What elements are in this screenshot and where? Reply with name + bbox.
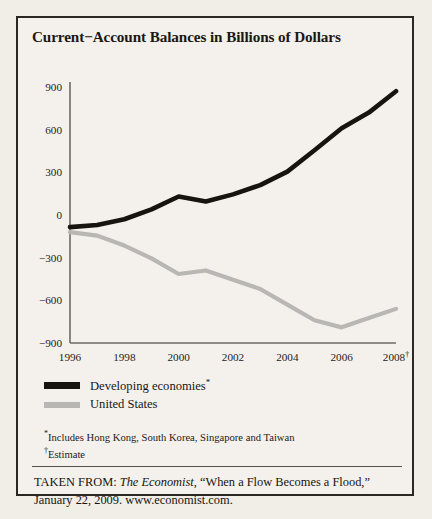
page-title: Current−Account Balances in Billions of … bbox=[32, 28, 341, 46]
series-line-developing-economies bbox=[70, 91, 396, 227]
source-date-url: January 22, 2009. www.economist.com. bbox=[34, 493, 233, 507]
x-axis-tick-labels: 1996199820002002200420062008† bbox=[59, 350, 409, 363]
x-tick-label: 2004 bbox=[276, 351, 299, 363]
x-tick-label: 1996 bbox=[59, 351, 82, 363]
x-tick-label: 2002 bbox=[222, 351, 244, 363]
source-article-title: , “When a Flow Becomes a Flood,” bbox=[194, 475, 370, 489]
source-divider bbox=[32, 466, 402, 467]
chart-plot-area: 9006003000−300−600−900 19961998200020022… bbox=[18, 54, 412, 364]
chart-legend: Developing economies* United States bbox=[44, 376, 384, 414]
footnote-dagger: †Estimate bbox=[44, 444, 394, 461]
y-tick-label: −600 bbox=[39, 294, 62, 306]
chart-footnotes: *Includes Hong Kong, South Korea, Singap… bbox=[44, 427, 394, 461]
footnote-star: *Includes Hong Kong, South Korea, Singap… bbox=[44, 427, 394, 444]
footnote-dagger-text: Estimate bbox=[48, 449, 85, 460]
source-prefix: TAKEN FROM: bbox=[34, 475, 120, 489]
legend-label-developing-economies-text: Developing economies bbox=[90, 379, 206, 393]
x-tick-label: 2008† bbox=[383, 350, 409, 363]
legend-label-united-states: United States bbox=[90, 397, 158, 412]
source-attribution: TAKEN FROM: The Economist, “When a Flow … bbox=[34, 474, 402, 509]
x-tick-label: 2006 bbox=[330, 351, 353, 363]
y-tick-label: −900 bbox=[39, 337, 62, 349]
x-tick-label: 1998 bbox=[113, 351, 136, 363]
footnote-star-text: Includes Hong Kong, South Korea, Singapo… bbox=[48, 432, 295, 443]
legend-item-developing-economies: Developing economies* bbox=[44, 376, 384, 395]
legend-item-united-states: United States bbox=[44, 395, 384, 414]
legend-label-developing-economies: Developing economies* bbox=[90, 377, 210, 394]
y-axis-tick-labels: 9006003000−300−600−900 bbox=[39, 81, 63, 349]
legend-swatch-united-states bbox=[44, 402, 80, 408]
y-tick-label: −300 bbox=[39, 252, 62, 264]
y-tick-label: 600 bbox=[45, 124, 62, 136]
line-chart-svg: 9006003000−300−600−900 19961998200020022… bbox=[18, 54, 412, 364]
figure-page: Current−Account Balances in Billions of … bbox=[0, 0, 432, 519]
x-tick-label: 2000 bbox=[167, 351, 190, 363]
y-tick-label: 900 bbox=[45, 81, 62, 93]
series-line-united-states bbox=[70, 232, 396, 327]
figure-container: Current−Account Balances in Billions of … bbox=[16, 16, 414, 496]
source-publication: The Economist bbox=[120, 475, 194, 489]
y-tick-label: 300 bbox=[45, 166, 62, 178]
legend-swatch-developing-economies bbox=[44, 382, 80, 389]
y-tick-label: 0 bbox=[56, 209, 62, 221]
legend-footnote-marker-star: * bbox=[206, 377, 211, 387]
